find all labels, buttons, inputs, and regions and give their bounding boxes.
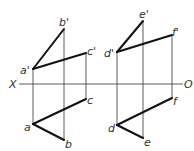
label-a: a: [24, 121, 31, 134]
axis-label-x: X: [8, 78, 17, 91]
label-b: b: [65, 138, 72, 151]
label-c-prime: c': [87, 45, 96, 58]
segment-d-e: [117, 125, 143, 138]
label-d: d: [108, 122, 116, 135]
segment-a-b: [33, 124, 64, 140]
label-e: e: [144, 136, 151, 149]
orthographic-projection-diagram: X O a' b' c' a b c d' e' f' d e f: [0, 0, 194, 151]
segment-a-prime-b-prime: [33, 29, 64, 69]
label-a-prime: a': [20, 64, 30, 77]
segment-a-c: [33, 99, 86, 124]
label-c: c: [87, 94, 93, 107]
segment-a-prime-c-prime: [33, 53, 86, 69]
label-b-prime: b': [59, 16, 69, 29]
label-e-prime: e': [139, 8, 149, 21]
segment-d-f: [117, 98, 172, 125]
axis-label-o: O: [184, 78, 193, 91]
label-f-prime: f': [172, 26, 179, 39]
label-d-prime: d': [104, 47, 114, 60]
label-f: f: [173, 95, 179, 108]
